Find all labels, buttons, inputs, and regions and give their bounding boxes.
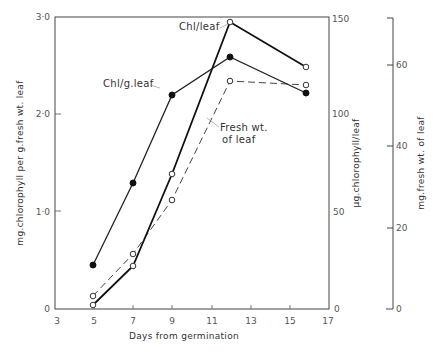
filled-circle-marker [130, 180, 136, 186]
annotation-fresh-weight: Fresh wt. [220, 122, 268, 133]
annotation-chl-per-g-leaf: Chl/g.leaf [103, 78, 154, 89]
annotation-fresh-weight-line2: of leaf [222, 134, 256, 145]
x-tick-label: 7 [130, 316, 136, 326]
filled-circle-marker [90, 262, 96, 268]
annotation-leader-line [207, 118, 219, 127]
open-circle-marker [227, 78, 233, 84]
open-circle-marker [169, 197, 175, 203]
right1-tick-label: 50 [333, 207, 345, 217]
open-circle-marker [90, 293, 96, 299]
x-axis-ticks [94, 305, 290, 309]
right1-tick-label: 100 [332, 109, 349, 119]
x-axis-title: Days from germination [129, 331, 239, 341]
chart: 3 5 7 9 11 13 15 17 Days from germinatio… [0, 0, 441, 352]
left-tick-label: 3·0 [36, 12, 51, 22]
x-axis-tick-labels: 3 5 7 9 11 13 15 17 [54, 316, 334, 326]
series-fresh-weight-line [93, 81, 306, 296]
annotation-leader-line [220, 24, 228, 28]
right1-tick-label: 0 [334, 304, 340, 314]
right2-tick-label: 60 [396, 60, 408, 70]
open-circle-marker [169, 171, 175, 177]
right2-tick-label: 0 [396, 304, 402, 314]
open-circle-marker [303, 82, 309, 88]
left-axis-title: mg.chlorophyll per g.fresh wt. leaf [15, 80, 25, 246]
x-tick-label: 5 [91, 316, 97, 326]
annotation-chl-per-leaf: Chl/leaf [179, 21, 220, 32]
right2-tick-label: 20 [396, 223, 408, 233]
open-circle-marker [130, 263, 136, 269]
right1-tick-label: 150 [332, 14, 349, 24]
x-tick-label: 11 [206, 316, 217, 326]
filled-circle-marker [169, 92, 175, 98]
open-circle-marker [90, 302, 96, 308]
left-tick-label: 2·0 [36, 109, 51, 119]
open-circle-marker [227, 19, 233, 25]
filled-circle-marker [303, 90, 309, 96]
x-tick-label: 9 [169, 316, 175, 326]
right2-axis [386, 18, 393, 309]
left-tick-label: 0 [44, 304, 50, 314]
open-circle-marker [303, 64, 309, 70]
left-tick-label: 1·0 [36, 207, 51, 217]
series-chl-per-leaf-markers [90, 19, 309, 308]
left-axis-ticks [55, 114, 61, 211]
right2-axis-title: mg.fresh wt. of leaf [416, 116, 426, 210]
series-fresh-weight-markers [90, 78, 309, 299]
open-circle-marker [130, 251, 136, 257]
x-tick-label: 13 [245, 316, 256, 326]
right2-tick-label: 40 [396, 141, 408, 151]
x-tick-label: 17 [322, 316, 333, 326]
filled-circle-marker [227, 54, 233, 60]
x-tick-label: 3 [54, 316, 60, 326]
x-tick-label: 15 [284, 316, 295, 326]
right1-axis-title: μg.chlorophyll/leaf [351, 118, 361, 208]
